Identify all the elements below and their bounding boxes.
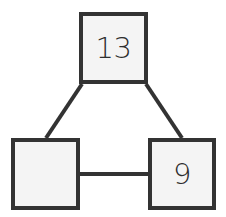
number-bond-diagram: 13 9 (0, 0, 226, 217)
whole-box: 13 (79, 12, 148, 84)
part-right-value: 9 (173, 157, 191, 191)
whole-value: 13 (96, 31, 132, 65)
part-box-right: 9 (148, 138, 216, 210)
connector-top-to-right (146, 84, 182, 138)
part-box-left-empty[interactable] (11, 138, 80, 210)
connector-top-to-left (46, 84, 82, 138)
